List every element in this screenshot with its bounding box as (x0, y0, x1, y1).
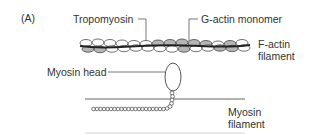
myosin-head (165, 63, 181, 91)
diagram-panel: (A) Tropomyosin G-actin monomer F-actin … (0, 0, 314, 135)
diagram-graphics (0, 0, 314, 135)
g-actin-leader (189, 19, 198, 41)
myosin-tail-chain (92, 107, 169, 111)
myosin-neck-chain (168, 91, 174, 108)
